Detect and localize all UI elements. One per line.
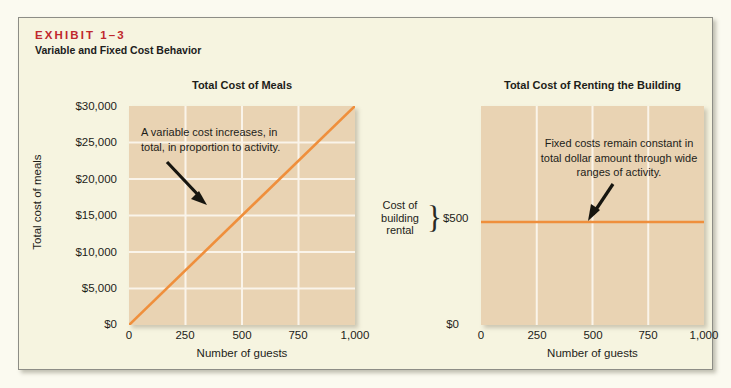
brace-label-value: $500 (443, 212, 469, 224)
x-tick-label: 250 (513, 329, 561, 341)
x-tick-label: 500 (218, 329, 266, 341)
y-tick-label: $0 (423, 318, 459, 330)
brace-label-building-rental: Cost of building rental } $500 (375, 199, 468, 237)
brace-label-line2: building (375, 212, 425, 225)
x-tick-label: 750 (274, 329, 322, 341)
chart-title-total-cost-of-renting: Total Cost of Renting the Building (481, 79, 704, 91)
x-tick-label: 500 (569, 329, 617, 341)
y-axis-title-meals: Total cost of meals (31, 122, 43, 282)
x-tick-label: 1,000 (331, 329, 379, 341)
x-tick-label: 1,000 (680, 329, 728, 341)
annotation-variable-cost: A variable cost increases, in total, in … (141, 125, 291, 154)
brace-glyph-icon: } (427, 203, 442, 233)
brace-label-line3: rental (375, 224, 425, 237)
x-tick-label: 0 (457, 329, 505, 341)
exhibit-panel: EXHIBIT 1–3 Variable and Fixed Cost Beha… (18, 17, 713, 370)
x-axis-title-meals: Number of guests (129, 347, 355, 359)
y-tick-label: $5,000 (23, 282, 117, 294)
brace-label-text: Cost of building rental (375, 199, 425, 237)
x-tick-label: 250 (161, 329, 209, 341)
y-tick-label: $30,000 (23, 100, 117, 112)
brace-label-line1: Cost of (375, 199, 425, 212)
exhibit-label: EXHIBIT 1–3 (35, 28, 201, 42)
x-tick-label: 750 (624, 329, 672, 341)
annotation-fixed-cost: Fixed costs remain constant in total dol… (539, 136, 699, 180)
x-tick-label: 0 (105, 329, 153, 341)
x-axis-title-rent: Number of guests (481, 347, 704, 359)
exhibit-header: EXHIBIT 1–3 Variable and Fixed Cost Beha… (35, 28, 201, 57)
chart-title-total-cost-of-meals: Total Cost of Meals (129, 79, 355, 91)
exhibit-subtitle: Variable and Fixed Cost Behavior (35, 43, 201, 57)
y-tick-label: $0 (23, 318, 117, 330)
annotation-arrow-left-chart (167, 162, 207, 205)
